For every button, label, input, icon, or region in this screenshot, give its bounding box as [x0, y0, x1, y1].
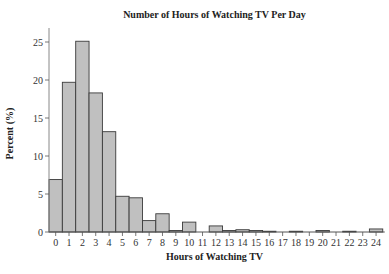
histogram-bar [156, 214, 169, 232]
histogram-bar [209, 226, 222, 232]
x-tick-label: 12 [211, 237, 221, 248]
histogram-bar [129, 198, 142, 232]
histogram-bar [142, 221, 155, 232]
x-tick-label: 1 [67, 237, 72, 248]
x-tick-label: 5 [120, 237, 125, 248]
y-tick-label: 10 [33, 151, 43, 162]
x-tick-label: 3 [93, 237, 98, 248]
x-tick-label: 20 [318, 237, 328, 248]
x-tick-label: 11 [198, 237, 208, 248]
x-tick-label: 0 [53, 237, 58, 248]
histogram-bar [49, 180, 62, 232]
x-tick-label: 14 [238, 237, 248, 248]
x-tick-label: 17 [278, 237, 288, 248]
histogram-bar [76, 41, 89, 232]
histogram-bar [89, 93, 102, 232]
histogram-bar [116, 196, 129, 232]
y-tick-label: 5 [38, 189, 43, 200]
x-tick-label: 22 [344, 237, 354, 248]
y-tick-label: 25 [33, 37, 43, 48]
x-tick-label: 16 [264, 237, 274, 248]
histogram-bar [62, 82, 75, 232]
x-tick-label: 18 [291, 237, 301, 248]
x-tick-label: 23 [358, 237, 368, 248]
x-tick-label: 2 [80, 237, 85, 248]
x-tick-label: 4 [107, 237, 112, 248]
x-tick-label: 21 [331, 237, 341, 248]
histogram-bar [183, 222, 196, 232]
x-tick-label: 8 [160, 237, 165, 248]
histogram-bar [102, 132, 115, 232]
x-tick-label: 7 [147, 237, 152, 248]
x-tick-label: 24 [371, 237, 381, 248]
x-tick-label: 13 [224, 237, 234, 248]
histogram-plot: 0123456789101112131415161718192021222324… [0, 0, 389, 274]
y-tick-label: 15 [33, 113, 43, 124]
x-tick-label: 9 [173, 237, 178, 248]
y-tick-label: 20 [33, 75, 43, 86]
y-tick-label: 0 [38, 227, 43, 238]
x-tick-label: 15 [251, 237, 261, 248]
x-tick-label: 10 [184, 237, 194, 248]
x-tick-label: 6 [133, 237, 138, 248]
x-tick-label: 19 [304, 237, 314, 248]
